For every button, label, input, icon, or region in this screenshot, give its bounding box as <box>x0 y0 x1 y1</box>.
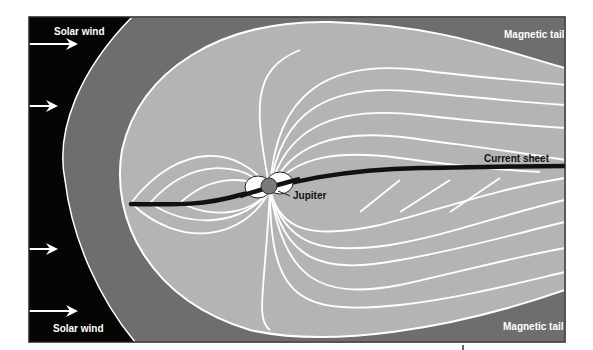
jupiter-label: Jupiter <box>293 190 326 201</box>
magnetic-tail-label-top: Magnetic tail <box>504 29 565 40</box>
magnetic-tail-label-bottom: Magnetic tail <box>503 321 564 332</box>
solar-wind-label-top: Solar wind <box>54 26 105 37</box>
solar-wind-label-bottom: Solar wind <box>53 323 104 334</box>
jupiter-planet <box>261 178 277 194</box>
current-sheet-label: Current sheet <box>484 153 550 164</box>
magnetosphere-diagram: Solar wind Solar wind Magnetic tail Magn… <box>0 0 593 350</box>
